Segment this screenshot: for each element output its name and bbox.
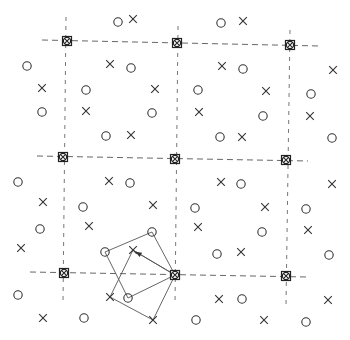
grid-vline-1 (175, 26, 178, 305)
cross-marker-icon (129, 15, 137, 23)
circle-marker-icon (237, 180, 245, 188)
cross-marker-icon (261, 203, 269, 211)
cross-marker-icon (149, 316, 157, 324)
cross-marker-icon (39, 314, 47, 322)
cross-marker-icon (194, 223, 202, 231)
cross-quadrilateral (110, 250, 175, 320)
cross-marker-icon (106, 60, 114, 68)
cross-marker-icon (105, 177, 113, 185)
circle-marker-icon (126, 179, 134, 187)
cross-marker-icon (329, 66, 337, 74)
circle-marker-icon (79, 203, 87, 211)
neighbor-polygons (105, 232, 175, 320)
circle-marker-icon (36, 225, 44, 233)
circle-quadrilateral (105, 232, 175, 298)
circled-cross-node-icon (171, 155, 180, 164)
circled-cross-node-icon (282, 156, 291, 165)
circled-cross-node-icon (59, 153, 68, 162)
cross-marker-icon (195, 108, 203, 116)
cross-marker-icon (218, 62, 226, 70)
circled-cross-node-icon (282, 272, 291, 281)
circle-marker-icon (194, 86, 202, 94)
cross-marker-icon (262, 87, 270, 95)
circle-marker-icon (80, 314, 88, 322)
circle-marker-icon (216, 133, 224, 141)
grid-hline-2 (30, 272, 308, 277)
cross-marker-icon (217, 178, 225, 186)
circle-marker-icon (217, 19, 225, 27)
circle-marker-icon (102, 132, 110, 140)
cross-marker-icon (215, 295, 223, 303)
circle-marker-icon (14, 291, 22, 299)
circle-marker-icon (14, 178, 22, 186)
circle-marker-icon (148, 109, 156, 117)
cross-marker-icon (106, 293, 114, 301)
cross-marker-icon (127, 131, 135, 139)
circled-cross-node-icon (63, 37, 72, 46)
cross-marker-icon (237, 248, 245, 256)
circle-marker-icon (302, 318, 310, 326)
cross-marker-icon (17, 244, 25, 252)
cross-marker-icon (82, 107, 90, 115)
circled-cross-node-icon (286, 41, 295, 50)
cross-marker-icon (324, 296, 332, 304)
grid-nodes (59, 37, 295, 281)
cross-marker-icon (129, 246, 137, 254)
cross-marker-icon (149, 201, 157, 209)
circled-cross-node-icon (60, 269, 69, 278)
circled-cross-node-icon (173, 39, 182, 48)
circle-marker-icon (307, 90, 315, 98)
circle-marker-icon (191, 204, 199, 212)
circle-marker-icon (238, 295, 246, 303)
cross-marker-icon (85, 222, 93, 230)
cross-marker-icon (306, 112, 314, 120)
cross-marker-icon (38, 84, 46, 92)
cross-marker-icon (238, 133, 246, 141)
lattice-diagram (0, 0, 350, 340)
cross-marker-icon (328, 180, 336, 188)
circle-marker-icon (259, 112, 267, 120)
circle-marker-icon (23, 62, 31, 70)
cross-marker-icon (151, 85, 159, 93)
cross-marker-icon (39, 198, 47, 206)
grid-vline-2 (286, 30, 290, 306)
circle-marker-icon (127, 64, 135, 72)
circle-marker-icon (328, 134, 336, 142)
circle-marker-icon (114, 18, 122, 26)
circle-marker-icon (213, 250, 221, 258)
cross-marker-icon (260, 316, 268, 324)
circle-marker-icon (325, 251, 333, 259)
circle-marker-icon (302, 205, 310, 213)
circle-marker-icon (38, 108, 46, 116)
cross-marker-icon (239, 17, 247, 25)
circle-marker-icon (82, 86, 90, 94)
cross-marker-icon (304, 226, 312, 234)
circle-marker-icon (239, 65, 247, 73)
circle-marker-icon (192, 316, 200, 324)
circle-marker-icon (258, 228, 266, 236)
circled-cross-node-icon (171, 271, 180, 280)
